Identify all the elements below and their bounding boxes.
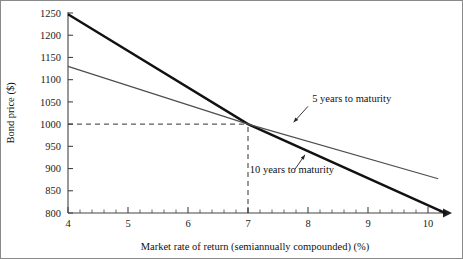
x-tick-label: 5 xyxy=(125,218,130,229)
x-tick-label: 7 xyxy=(245,218,250,229)
annotation-10y-label: 10 years to maturity xyxy=(250,164,335,175)
y-axis-ticks xyxy=(68,13,73,213)
x-tick-label: 4 xyxy=(65,218,71,229)
y-axis-title: Bond price ($) xyxy=(5,82,17,144)
series-lines xyxy=(68,14,446,213)
reference-guide-lines xyxy=(68,124,248,213)
y-tick-label: 1250 xyxy=(40,8,61,19)
y-tick-label: 1000 xyxy=(40,119,61,130)
y-tick-label: 950 xyxy=(45,141,61,152)
series-line-5-years-to-maturity xyxy=(68,66,438,178)
y-tick-label: 1200 xyxy=(40,30,61,41)
y-axis-tick-labels: 800850900950100010501100115012001250 xyxy=(40,8,61,219)
chart-canvas: 800850900950100010501100115012001250 456… xyxy=(0,0,463,259)
y-tick-label: 1050 xyxy=(40,97,61,108)
x-tick-label: 9 xyxy=(365,218,370,229)
annotation-5y-label: 5 years to maturity xyxy=(312,93,392,104)
bond-price-chart-figure: 800850900950100010501100115012001250 456… xyxy=(0,0,463,259)
x-tick-label: 8 xyxy=(305,218,310,229)
annotation-10y-arrowhead xyxy=(301,155,305,160)
series-line-10-years-to-maturity xyxy=(68,14,446,213)
y-tick-label: 900 xyxy=(45,163,61,174)
y-tick-label: 1150 xyxy=(40,52,61,63)
x-tick-label: 6 xyxy=(185,218,190,229)
y-tick-label: 850 xyxy=(45,185,61,196)
y-tick-label: 1100 xyxy=(40,74,61,85)
x-tick-label: 10 xyxy=(423,218,434,229)
x-axis-tick-labels: 45678910 xyxy=(65,218,433,229)
x-axis-title: Market rate of return (semiannually comp… xyxy=(141,241,370,253)
y-tick-label: 800 xyxy=(45,208,61,219)
